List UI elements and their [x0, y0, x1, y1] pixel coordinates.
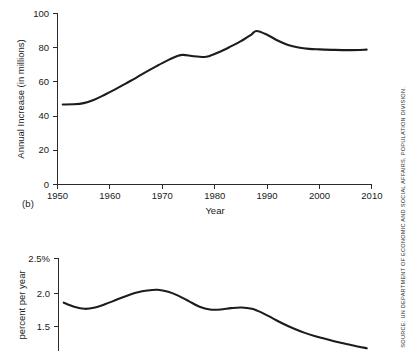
- y-tick-label-80: 80: [38, 42, 49, 53]
- figure-container: 0 20 40 60 80 100 1950 1960 1970 1980 19…: [0, 0, 411, 351]
- y-tick-label-20: 20: [38, 144, 49, 155]
- source-credit-text: SOURCE: UN DEPARTMENT OF ECONOMIC AND SO…: [400, 87, 406, 348]
- x-tick-label-1990: 1990: [257, 190, 278, 201]
- y-axis-title-panel-a: Annual Increase (in millions): [15, 39, 26, 158]
- chart-growth-rate-svg: 2.5% 2.0 1.5 percent per year: [0, 243, 390, 351]
- x-tick-label-1980: 1980: [204, 190, 225, 201]
- chart-annual-increase: 0 20 40 60 80 100 1950 1960 1970 1980 19…: [0, 0, 390, 195]
- chart-growth-rate: 2.5% 2.0 1.5 percent per year: [0, 243, 390, 351]
- x-axis-title-panel-a: Year: [205, 205, 224, 216]
- data-line-growth-rate: [64, 290, 367, 349]
- y-tick-label-60: 60: [38, 76, 49, 87]
- y-tick-label-0: 0: [44, 179, 49, 190]
- x-tick-label-1950: 1950: [47, 190, 68, 201]
- x-tick-label-2010: 2010: [361, 190, 382, 201]
- y-tick-label-100: 100: [33, 8, 49, 19]
- y-tick-label-40: 40: [38, 110, 49, 121]
- chart-annual-increase-svg: 0 20 40 60 80 100 1950 1960 1970 1980 19…: [0, 0, 390, 195]
- x-tick-label-1960: 1960: [99, 190, 120, 201]
- y-tick-label-1p5: 1.5: [37, 321, 50, 332]
- source-credit: SOURCE: UN DEPARTMENT OF ECONOMIC AND SO…: [396, 68, 410, 348]
- data-line-annual-increase: [63, 31, 367, 105]
- x-tick-label-2000: 2000: [309, 190, 330, 201]
- x-tick-label-1970: 1970: [152, 190, 173, 201]
- y-tick-label-2p5: 2.5%: [28, 253, 50, 264]
- y-axis-title-panel-b: percent per year: [16, 270, 27, 339]
- y-tick-label-2p0: 2.0: [37, 288, 50, 299]
- panel-label-b: (b): [22, 198, 34, 209]
